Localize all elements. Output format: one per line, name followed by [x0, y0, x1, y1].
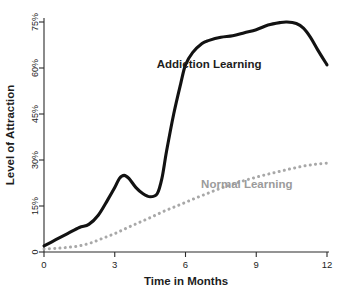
normal-learning-label: Normal Learning	[201, 178, 292, 190]
chart-canvas: 015%30%45%60%75% 036912 Addiction Learni…	[0, 0, 345, 293]
y-tick-label: 30%	[30, 151, 40, 169]
x-tick-label: 6	[183, 259, 188, 270]
y-tick-label: 45%	[30, 105, 40, 123]
x-tick-label: 3	[112, 259, 117, 270]
chart-background	[0, 0, 345, 293]
y-axis-title: Level of Attraction	[4, 85, 16, 186]
y-tick-label: 0	[30, 249, 40, 254]
addiction-learning-label: Addiction Learning	[157, 58, 262, 70]
x-axis-title: Time in Months	[144, 275, 228, 287]
x-tick-label: 12	[322, 259, 333, 270]
y-tick-label: 60%	[30, 59, 40, 77]
x-tick-label: 0	[41, 259, 46, 270]
y-tick-label: 15%	[30, 197, 40, 215]
y-tick-label: 75%	[30, 13, 40, 31]
attraction-learning-chart: 015%30%45%60%75% 036912 Addiction Learni…	[0, 0, 345, 293]
x-tick-label: 9	[254, 259, 259, 270]
